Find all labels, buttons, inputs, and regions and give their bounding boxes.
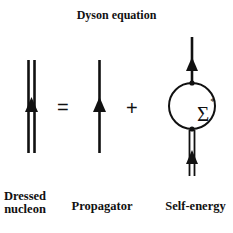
label-dressed-nucleon: Dressed nucleon bbox=[0, 190, 50, 216]
plus-sign: + bbox=[126, 98, 138, 118]
label-self-energy: Self-energy bbox=[158, 200, 233, 213]
bare-propagator-line bbox=[93, 60, 106, 153]
equals-sign: = bbox=[57, 97, 69, 117]
label-dressed-line2: nucleon bbox=[0, 203, 50, 216]
label-propagator: Propagator bbox=[66, 200, 138, 213]
sigma-star-symbol: Σ* bbox=[197, 99, 214, 125]
arrow-up-icon bbox=[93, 97, 106, 112]
arrow-up-icon bbox=[186, 57, 198, 71]
arrow-up-icon bbox=[25, 97, 38, 112]
dressed-propagator-double-line bbox=[25, 60, 38, 153]
sigma-superscript: * bbox=[210, 96, 215, 107]
vertex-top bbox=[189, 80, 194, 85]
arrow-up-icon bbox=[186, 150, 198, 164]
sigma-base: Σ bbox=[197, 102, 209, 126]
